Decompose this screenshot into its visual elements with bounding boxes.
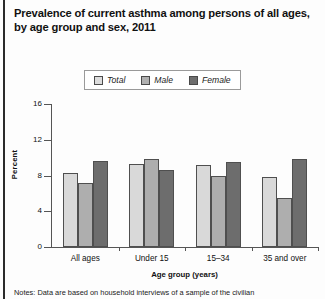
y-axis-tick bbox=[44, 176, 51, 177]
bar-total-2 bbox=[129, 164, 144, 247]
bar-female-1 bbox=[93, 161, 108, 247]
bar-series-container bbox=[52, 104, 318, 247]
bar-group bbox=[262, 104, 307, 247]
y-axis-tick-label: 0 bbox=[24, 243, 42, 251]
y-axis-tick bbox=[44, 140, 51, 141]
bar-group bbox=[63, 104, 108, 247]
y-axis-title: Percent bbox=[10, 135, 19, 195]
y-axis-tick bbox=[44, 211, 51, 212]
bar-group bbox=[196, 104, 241, 247]
chart-page: Prevalence of current asthma among perso… bbox=[0, 0, 325, 299]
bar-female-4 bbox=[292, 159, 307, 247]
x-axis-category-1: All ages bbox=[52, 254, 119, 263]
bar-male-3 bbox=[211, 176, 226, 247]
y-axis-tick-label: 16 bbox=[24, 100, 42, 108]
x-axis-title: Age group (years) bbox=[51, 270, 318, 279]
bar-female-3 bbox=[226, 162, 241, 247]
x-axis-category-2: Under 15 bbox=[119, 254, 186, 263]
y-axis-tick-label: 12 bbox=[24, 136, 42, 144]
bar-male-4 bbox=[277, 198, 292, 247]
x-axis-category-4: 35 and over bbox=[252, 254, 319, 263]
bar-group bbox=[129, 104, 174, 247]
x-axis-tick bbox=[119, 247, 120, 251]
y-axis-tick bbox=[44, 104, 51, 105]
bar-male-2 bbox=[144, 159, 159, 247]
x-axis-tick bbox=[252, 247, 253, 251]
y-axis-tick-label: 4 bbox=[24, 207, 42, 215]
x-axis-tick bbox=[185, 247, 186, 251]
bar-total-1 bbox=[63, 173, 78, 247]
y-axis-tick-label: 8 bbox=[24, 172, 42, 180]
bar-total-4 bbox=[262, 177, 277, 247]
bar-total-3 bbox=[196, 165, 211, 247]
x-axis-category-3: 15–34 bbox=[185, 254, 252, 263]
y-axis-tick bbox=[44, 247, 51, 248]
bar-male-1 bbox=[78, 183, 93, 247]
chart-plot-area: Percent 0481216 All agesUnder 1515–3435 … bbox=[0, 0, 325, 299]
chart-notes: Notes: Data are based on household inter… bbox=[14, 288, 319, 298]
bar-female-2 bbox=[159, 170, 174, 247]
x-axis-tick bbox=[318, 247, 319, 251]
